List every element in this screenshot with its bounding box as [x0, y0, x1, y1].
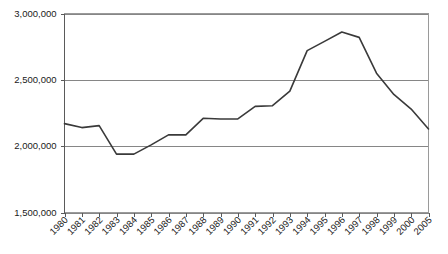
- x-tick-label-1997: 1997: [342, 214, 365, 237]
- x-tick-label-1984: 1984: [117, 214, 140, 237]
- x-tick-label-2005: 2005: [411, 214, 434, 237]
- x-tick-label-1995: 1995: [307, 214, 330, 237]
- y-tick-label: 2,000,000: [14, 140, 56, 151]
- y-axis-tick-labels: 3,000,0002,500,0002,000,0001,500,000: [14, 8, 64, 218]
- x-tick-label-1988: 1988: [186, 214, 209, 237]
- x-tick-label-2000: 2000: [394, 214, 417, 237]
- x-tick-label-1998: 1998: [359, 214, 382, 237]
- x-tick-label-1994: 1994: [290, 214, 313, 237]
- x-tick-label-1989: 1989: [203, 214, 226, 237]
- x-tick-label-1987: 1987: [169, 214, 192, 237]
- x-tick-label-1986: 1986: [151, 214, 174, 237]
- y-tick-label: 3,000,000: [14, 8, 56, 19]
- x-axis-tick-labels: 1980198119821983198419851986198719881989…: [47, 214, 434, 237]
- data-series-line: [65, 32, 429, 154]
- chart-canvas: 3,000,0002,500,0002,000,0001,500,000 198…: [0, 0, 448, 254]
- x-tick-label-1981: 1981: [65, 214, 88, 237]
- x-tick-label-1985: 1985: [134, 214, 157, 237]
- x-tick-label-1982: 1982: [82, 214, 105, 237]
- x-tick-label-1983: 1983: [99, 214, 122, 237]
- y-tick-label: 1,500,000: [14, 207, 56, 218]
- x-tick-label-1992: 1992: [255, 214, 278, 237]
- y-tick-label: 2,500,000: [14, 74, 56, 85]
- line-chart: 3,000,0002,500,0002,000,0001,500,000 198…: [0, 0, 448, 254]
- gridlines: [65, 15, 429, 214]
- x-tick-label-1999: 1999: [377, 214, 400, 237]
- x-tick-label-1993: 1993: [273, 214, 296, 237]
- series-polyline-series-1: [65, 32, 429, 154]
- x-tick-label-1996: 1996: [325, 214, 348, 237]
- x-tick-label-1991: 1991: [238, 214, 261, 237]
- x-tick-label-1990: 1990: [221, 214, 244, 237]
